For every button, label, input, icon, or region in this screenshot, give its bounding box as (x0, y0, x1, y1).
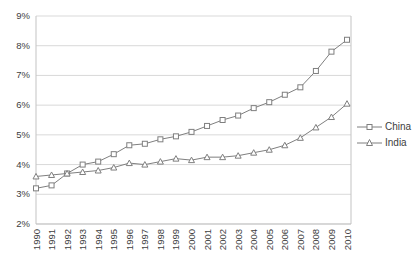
legend-item-india: India (357, 137, 411, 149)
svg-text:2003: 2003 (233, 229, 244, 250)
svg-text:1990: 1990 (31, 229, 42, 250)
svg-text:2009: 2009 (326, 229, 337, 250)
svg-text:6%: 6% (16, 99, 30, 110)
svg-text:1994: 1994 (93, 229, 104, 250)
svg-text:2005: 2005 (264, 229, 275, 250)
line-chart-plot-area: 2%3%4%5%6%7%8%9%199019911992199319941995… (0, 0, 415, 270)
china-series (34, 37, 350, 191)
axes (36, 16, 351, 224)
svg-text:2007: 2007 (295, 229, 306, 250)
svg-text:2%: 2% (16, 218, 30, 229)
india-series-triangle-marker-icon (357, 138, 382, 148)
svg-text:1991: 1991 (46, 229, 57, 250)
svg-text:1993: 1993 (77, 229, 88, 250)
gridlines (36, 16, 351, 224)
china-series-square-marker-icon (357, 122, 382, 132)
svg-text:2000: 2000 (186, 229, 197, 250)
legend-label-india: India (385, 137, 407, 149)
svg-text:9%: 9% (16, 10, 30, 21)
svg-text:1997: 1997 (139, 229, 150, 250)
legend-label-china: China (385, 121, 411, 133)
svg-text:2008: 2008 (310, 229, 321, 250)
svg-text:1999: 1999 (170, 229, 181, 250)
svg-text:8%: 8% (16, 40, 30, 51)
svg-text:4%: 4% (16, 159, 30, 170)
svg-text:1996: 1996 (124, 229, 135, 250)
svg-text:2002: 2002 (217, 229, 228, 250)
svg-text:1995: 1995 (108, 229, 119, 250)
svg-text:2006: 2006 (279, 229, 290, 250)
legend-item-china: China (357, 121, 411, 133)
svg-text:1998: 1998 (155, 229, 166, 250)
svg-text:3%: 3% (16, 188, 30, 199)
svg-text:5%: 5% (16, 129, 30, 140)
x-axis-labels: 1990199119921993199419951996199719981999… (31, 229, 353, 250)
legend: China India (357, 121, 411, 149)
line-chart: 2%3%4%5%6%7%8%9%199019911992199319941995… (0, 0, 415, 270)
y-axis-labels: 2%3%4%5%6%7%8%9% (16, 10, 30, 229)
svg-text:2004: 2004 (248, 229, 259, 250)
svg-text:1992: 1992 (62, 229, 73, 250)
svg-text:7%: 7% (16, 69, 30, 80)
svg-text:2010: 2010 (342, 229, 353, 250)
svg-text:2001: 2001 (202, 229, 213, 250)
